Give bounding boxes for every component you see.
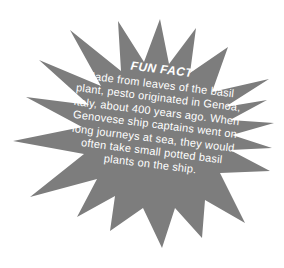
fun-fact-callout: FUN FACT Made from leaves of the basil p… <box>0 0 284 268</box>
